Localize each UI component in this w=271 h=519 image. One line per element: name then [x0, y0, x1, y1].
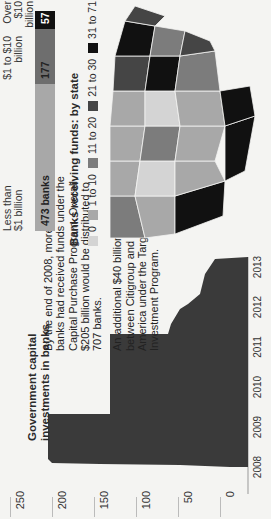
swatch-icon: [88, 236, 98, 246]
bar-category-label: $1 to $10 billion: [2, 36, 24, 86]
legend-item: 11 to 20: [86, 117, 98, 168]
x-tick: 2009: [252, 412, 263, 442]
legend-item: 31 to 71: [86, 1, 98, 53]
bar-segment-large: 57: [35, 11, 55, 29]
bar-segment-small: 473 banks: [35, 84, 55, 231]
us-state-map: [105, 0, 271, 256]
legend-item: 21 to 30: [86, 59, 98, 111]
bar-category-label: Over $10 billion: [2, 1, 35, 41]
x-tick: 2013: [252, 252, 263, 282]
map-legend: 0 1 to 10 11 to 20 21 to 30 31 to 71: [86, 1, 98, 246]
bar-segment-mid: 177: [35, 29, 55, 84]
legend-item: 0: [86, 226, 98, 246]
x-tick: 2008: [252, 452, 263, 482]
legend-item: 1 to 10: [86, 174, 98, 220]
banks-by-size-panel: Less than $1 billion $1 to $10 billion O…: [0, 0, 271, 256]
swatch-icon: [88, 101, 98, 111]
swatch-icon: [88, 158, 98, 168]
x-tick: 2011: [252, 332, 263, 362]
bar-category-label: Less than $1 billion: [2, 171, 24, 231]
swatch-icon: [88, 43, 98, 53]
x-tick: 2012: [252, 292, 263, 322]
swatch-icon: [88, 210, 98, 220]
rotated-page: 250 200 150 100 50 0 2008 2009 2010 2011…: [0, 0, 271, 519]
x-tick: 2010: [252, 372, 263, 402]
stacked-bar: 473 banks 177 57: [35, 11, 55, 231]
map-title: Banks receiving funds: by state: [68, 73, 80, 246]
